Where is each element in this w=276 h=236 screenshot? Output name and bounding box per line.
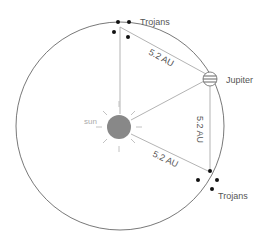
triangle-lines <box>120 27 210 171</box>
trojans-top-dots <box>112 20 131 39</box>
trojans-top-label: Trojans <box>140 17 170 27</box>
jupiter-label: Jupiter <box>226 75 253 85</box>
jupiter-icon <box>203 72 217 86</box>
sun-label: sun <box>84 117 97 126</box>
trojan-diagram: sun Jupiter Trojans Trojans 5.2 AU 5.2 A… <box>0 0 276 236</box>
trojans-bottom-label: Trojans <box>218 191 248 201</box>
diagram-svg: sun Jupiter Trojans Trojans 5.2 AU 5.2 A… <box>0 0 276 236</box>
sun-icon <box>107 115 131 139</box>
distance-label-bottom: 5.2 AU <box>151 149 180 169</box>
trojans-bottom-dots <box>196 169 219 191</box>
distance-label-right: 5.2 AU <box>195 116 205 143</box>
distance-label-top: 5.2 AU <box>147 47 176 69</box>
